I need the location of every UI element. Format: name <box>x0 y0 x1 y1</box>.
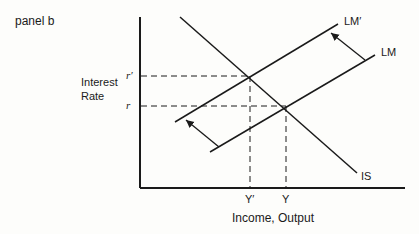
lm-curve <box>210 55 375 152</box>
is-curve <box>180 17 357 173</box>
diagram-canvas <box>0 0 419 234</box>
lm-prime-curve <box>175 24 338 122</box>
shift-arrow-lower <box>186 120 219 147</box>
shift-arrow-upper <box>331 33 365 60</box>
